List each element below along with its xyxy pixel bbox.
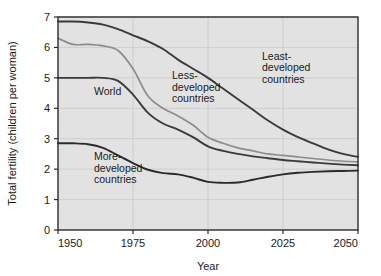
y-tick-label: 0	[44, 224, 50, 236]
y-tick-label: 1	[44, 194, 50, 206]
fertility-line-chart: 01234567 19501975200020252050 Less-devel…	[0, 0, 381, 276]
annotation-line: World	[94, 85, 121, 97]
series-annotation: World	[94, 85, 121, 97]
annotation-line: countries	[262, 73, 305, 85]
x-tick-label: 1975	[121, 237, 145, 249]
y-tick-label: 5	[44, 72, 50, 84]
annotation-line: developed	[94, 162, 143, 174]
y-axis-title: Total fertility (children per woman)	[6, 41, 18, 205]
x-tick-label: 2025	[271, 237, 295, 249]
chart-svg: 01234567 19501975200020252050 Less-devel…	[0, 0, 381, 276]
y-tick-label: 3	[44, 133, 50, 145]
annotation-line: Less-	[172, 69, 198, 81]
annotation-line: countries	[172, 92, 215, 104]
annotation-line: countries	[94, 173, 137, 185]
x-tick-label: 2050	[334, 237, 358, 249]
y-tick-label: 2	[44, 163, 50, 175]
annotation-line: More-	[94, 150, 122, 162]
annotation-line: developed	[172, 81, 221, 93]
x-tick-label: 1950	[58, 237, 82, 249]
annotation-line: Least-	[262, 50, 292, 62]
y-tick-label: 7	[44, 11, 50, 23]
y-tick-label: 4	[44, 102, 50, 114]
annotation-line: developed	[262, 61, 311, 73]
x-tick-label: 2000	[196, 237, 220, 249]
x-axis-title: Year	[197, 260, 220, 272]
y-tick-label: 6	[44, 41, 50, 53]
